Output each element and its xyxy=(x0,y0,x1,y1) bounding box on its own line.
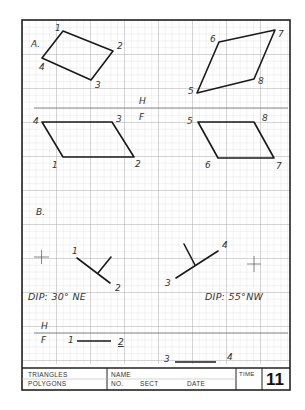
sheet-number: 11 xyxy=(266,371,284,388)
vertex-label: 2 xyxy=(117,42,123,51)
title-line-2: POLYGONS xyxy=(28,381,66,388)
fold-label-h: H xyxy=(139,97,146,106)
line-point-label: 2 xyxy=(118,338,124,347)
strike-point-label: 4 xyxy=(222,241,228,250)
vertex-label: 8 xyxy=(258,77,264,86)
vertex-label: 5 xyxy=(188,87,194,96)
dip-text-right: DIP: 55°NW xyxy=(205,292,263,302)
vertex-label: 6 xyxy=(205,161,211,170)
strike-point-label: 3 xyxy=(165,279,171,288)
no-label: NO. xyxy=(111,381,123,388)
strike-point-label: 1 xyxy=(72,247,78,256)
name-label: NAME xyxy=(111,372,131,379)
vertex-label: 7 xyxy=(278,30,284,39)
dip-text-left: DIP: 30° NE xyxy=(28,292,86,302)
vertex-label: 4 xyxy=(39,63,45,72)
time-label: TIME xyxy=(239,371,255,377)
fold-label-h-bottom: H xyxy=(41,322,48,331)
vertex-label: 8 xyxy=(262,114,268,123)
vertex-label: 4 xyxy=(33,117,39,126)
fold-label-f-bottom: F xyxy=(41,336,46,345)
drafting-sheet xyxy=(0,0,305,410)
vertex-label: 2 xyxy=(135,160,141,169)
vertex-label: 5 xyxy=(187,117,193,126)
vertex-label: 1 xyxy=(52,161,58,170)
section-b-label: B. xyxy=(36,208,45,217)
strike-point-label: 2 xyxy=(115,284,121,293)
grid xyxy=(22,20,290,364)
vertex-label: 6 xyxy=(210,35,216,44)
vertex-label: 7 xyxy=(276,162,282,171)
line-point-label: 1 xyxy=(68,336,74,345)
vertex-label: 3 xyxy=(116,115,122,124)
line-point-label: 3 xyxy=(164,355,170,364)
sect-label: SECT xyxy=(140,381,159,388)
fold-label-f: F xyxy=(139,113,144,122)
vertex-label: 3 xyxy=(95,81,101,90)
line-point-label: 4 xyxy=(227,353,233,362)
vertex-label: 1 xyxy=(55,24,61,33)
date-label: DATE xyxy=(187,381,205,388)
section-a-label: A. xyxy=(31,40,40,49)
title-line-1: TRIANGLES xyxy=(28,372,68,379)
